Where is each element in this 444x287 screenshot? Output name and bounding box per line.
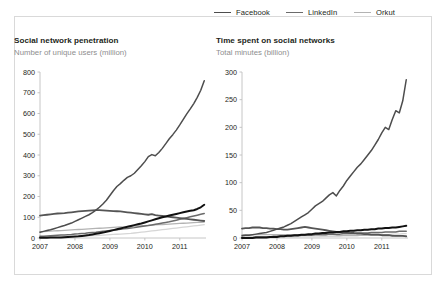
panel-left-subtitle: Number of unique users (million) [14, 48, 127, 57]
x-tick-label: 2011 [374, 242, 389, 251]
y-tick-label: 300 [225, 68, 237, 77]
panel-right-title: Time spent on social networks [216, 36, 335, 45]
y-tick-label: 600 [23, 109, 35, 118]
y-tick-label: 200 [23, 192, 35, 201]
legend-line-swatch-orkut [354, 12, 371, 13]
x-tick-label: 2007 [32, 242, 48, 251]
panel-left-title: Social network penetration [14, 36, 119, 45]
x-tick-label: 2007 [234, 242, 250, 251]
y-tick-label: 800 [23, 68, 35, 77]
y-tick-label: 100 [23, 213, 35, 222]
x-tick-label: 2008 [67, 242, 83, 251]
panel-time-spent-on-social-networks: Time spent on social networks Total minu… [216, 36, 412, 256]
series-line-twitter [40, 205, 204, 238]
x-tick-label: 2010 [137, 242, 153, 251]
y-tick-label: 100 [225, 178, 237, 187]
legend-line-swatch-linkedin [286, 12, 303, 13]
x-tick-label: 2011 [172, 242, 187, 251]
plot-area-right: 05010015020025030020072008200920102011 [216, 66, 412, 256]
y-tick-label: 150 [225, 151, 237, 160]
x-tick-label: 2010 [339, 242, 355, 251]
legend-line-swatch-facebook [214, 12, 231, 13]
series-line-orkut [40, 222, 204, 232]
panel-social-network-penetration: Social network penetration Number of uni… [14, 36, 210, 256]
y-tick-label: 200 [225, 123, 237, 132]
x-tick-label: 2009 [102, 242, 118, 251]
y-tick-label: 400 [23, 151, 35, 160]
panel-right-subtitle: Total minutes (billion) [216, 48, 289, 57]
y-tick-label: 700 [23, 88, 35, 97]
series-line-facebook [40, 81, 204, 232]
chart-svg: 05010015020025030020072008200920102011 [216, 66, 412, 256]
chart-svg: 0100200300400500600700800200720082009201… [14, 66, 210, 256]
y-tick-label: 300 [23, 171, 35, 180]
x-tick-label: 2008 [269, 242, 285, 251]
y-tick-label: 250 [225, 95, 237, 104]
plot-area-left: 0100200300400500600700800200720082009201… [14, 66, 210, 256]
x-tick-label: 2009 [304, 242, 320, 251]
y-tick-label: 50 [229, 206, 237, 215]
y-tick-label: 500 [23, 130, 35, 139]
series-line-facebook [242, 80, 406, 236]
